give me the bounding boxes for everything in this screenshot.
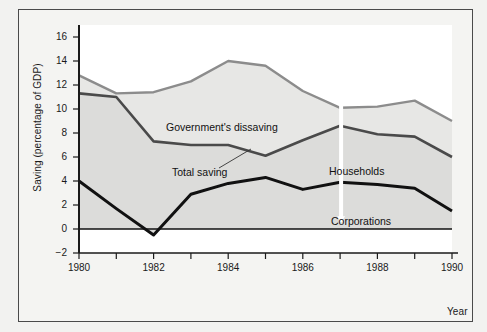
y-tick-label: 6 (45, 151, 67, 162)
annotation-corporations: Corporations (331, 215, 391, 227)
annotation-households: Households (329, 165, 384, 177)
x-tick-label: 1980 (59, 262, 99, 273)
x-axis-ticks (79, 253, 452, 259)
y-tick-label: −2 (45, 247, 67, 258)
figure-background: Saving (percentage of GDP) Year −2024681… (0, 0, 487, 332)
y-tick-label: 0 (45, 223, 67, 234)
x-tick-label: 1984 (208, 262, 248, 273)
chart-canvas (19, 10, 472, 321)
annotation-total-saving: Total saving (172, 166, 227, 178)
y-tick-label: 8 (45, 127, 67, 138)
x-axis-title: Year (447, 306, 468, 317)
y-tick-label: 10 (45, 103, 67, 114)
x-tick-label: 1982 (134, 262, 174, 273)
y-tick-label: 16 (45, 31, 67, 42)
annotation-government-dissaving: Government's dissaving (166, 121, 278, 133)
y-tick-label: 14 (45, 55, 67, 66)
x-tick-label: 1986 (283, 262, 323, 273)
x-tick-label: 1988 (357, 262, 397, 273)
y-tick-label: 4 (45, 175, 67, 186)
y-axis-title: Saving (percentage of GDP) (32, 48, 43, 208)
x-tick-label: 1990 (432, 262, 472, 273)
y-tick-label: 12 (45, 79, 67, 90)
y-tick-label: 2 (45, 199, 67, 210)
figure-frame: Saving (percentage of GDP) Year −2024681… (18, 9, 473, 322)
